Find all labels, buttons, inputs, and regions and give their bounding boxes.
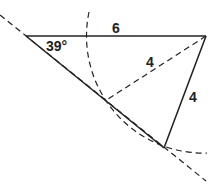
side-solid-label: 4: [189, 89, 197, 105]
side-right-solid: [164, 36, 206, 148]
angle-label: 39°: [46, 38, 67, 54]
triangle-diagram: 39° 6 4 4: [0, 0, 224, 191]
side-top-label: 6: [112, 20, 120, 36]
side-dashed-label: 4: [146, 54, 154, 70]
